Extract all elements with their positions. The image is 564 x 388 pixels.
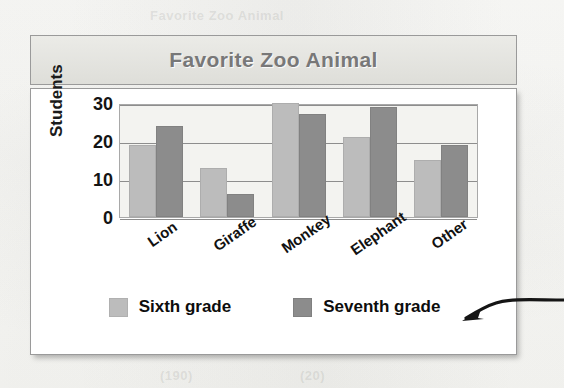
bar-group-lion bbox=[120, 105, 191, 217]
bar-other-seventh[interactable] bbox=[441, 145, 468, 217]
plot-area bbox=[119, 104, 478, 218]
ghost-text: Favorite Zoo Animal bbox=[150, 8, 284, 23]
bar-group-other bbox=[406, 105, 477, 217]
ghost-text: (20) bbox=[300, 368, 325, 383]
pointer-arrow-annotation bbox=[440, 278, 564, 326]
y-tick-label-20: 20 bbox=[69, 132, 113, 153]
x-label-cell: Elephant bbox=[334, 222, 406, 284]
gridline-0 bbox=[120, 219, 477, 220]
chart-title-banner: Favorite Zoo Animal bbox=[30, 35, 517, 85]
x-label-cell: Lion bbox=[119, 222, 191, 284]
bar-giraffe-sixth[interactable] bbox=[200, 168, 227, 217]
y-axis-label: Students bbox=[47, 64, 67, 137]
bar-monkey-seventh[interactable] bbox=[299, 114, 326, 217]
bar-group-giraffe bbox=[191, 105, 262, 217]
chart-title: Favorite Zoo Animal bbox=[169, 48, 378, 72]
x-label-cell: Other bbox=[406, 222, 478, 284]
pointer-arrow-icon bbox=[440, 278, 564, 326]
bar-groups bbox=[120, 105, 477, 217]
y-tick-label-10: 10 bbox=[69, 170, 113, 191]
y-tick-label-30: 30 bbox=[69, 94, 113, 115]
bar-other-sixth[interactable] bbox=[414, 160, 441, 217]
legend-swatch-seven bbox=[293, 298, 312, 317]
x-axis-category-labels: LionGiraffeMonkeyElephantOther bbox=[119, 222, 478, 284]
bar-elephant-sixth[interactable] bbox=[343, 137, 370, 217]
bar-elephant-seventh[interactable] bbox=[370, 107, 397, 217]
bar-lion-seventh[interactable] bbox=[156, 126, 183, 217]
x-tick-label-lion: Lion bbox=[144, 218, 180, 250]
legend-label: Sixth grade bbox=[139, 297, 232, 317]
bar-group-monkey bbox=[263, 105, 334, 217]
y-tick-label-0: 0 bbox=[69, 208, 113, 229]
legend-swatch-six bbox=[109, 298, 128, 317]
legend-label: Seventh grade bbox=[323, 297, 440, 317]
x-label-cell: Giraffe bbox=[191, 222, 263, 284]
x-label-cell: Monkey bbox=[263, 222, 335, 284]
x-tick-label-other: Other bbox=[428, 215, 471, 252]
legend-item-seventh[interactable]: Seventh grade bbox=[293, 297, 440, 317]
ghost-text: (190) bbox=[160, 368, 193, 383]
legend-item-sixth[interactable]: Sixth grade bbox=[109, 297, 232, 317]
bar-group-elephant bbox=[334, 105, 405, 217]
bar-monkey-sixth[interactable] bbox=[272, 103, 299, 217]
y-axis-tick-labels: 3020100 bbox=[67, 104, 113, 218]
bar-lion-sixth[interactable] bbox=[129, 145, 156, 217]
